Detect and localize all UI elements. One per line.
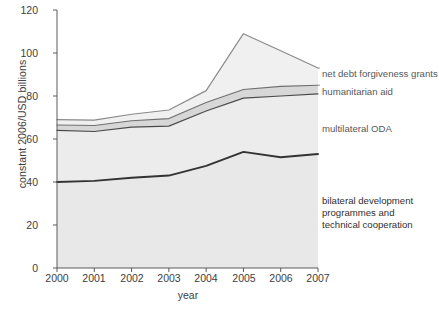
y-tick-label-120: 120: [8, 5, 38, 15]
x-tick-label-2000: 2000: [37, 272, 77, 284]
x-axis-title: year: [57, 289, 319, 301]
chart-canvas: constant 2006/USD billions year 120 100 …: [0, 0, 439, 309]
x-tick-label-2002: 2002: [112, 272, 152, 284]
x-tick-label-2007: 2007: [298, 272, 338, 284]
x-tick-label-2006: 2006: [261, 272, 301, 284]
y-tick-label-20: 20: [8, 220, 38, 230]
annotation-multilateral-oda: multilateral ODA: [322, 123, 392, 135]
x-tick-label-2003: 2003: [149, 272, 189, 284]
y-tick-label-60: 60: [8, 134, 38, 144]
annotation-humanitarian-aid: humanitarian aid: [322, 86, 393, 98]
y-tick-label-80: 80: [8, 91, 38, 101]
area-chart-plot: [0, 0, 439, 309]
annotation-bilateral-line-1: bilateral development: [322, 195, 413, 207]
x-tick-label-2001: 2001: [74, 272, 114, 284]
y-tick-label-100: 100: [8, 48, 38, 58]
annotation-bilateral-line-3: technical cooperation: [322, 219, 413, 231]
y-tick-label-40: 40: [8, 177, 38, 187]
x-tick-label-2005: 2005: [224, 272, 264, 284]
annotation-bilateral-line-2: programmes and: [322, 207, 395, 219]
x-tick-label-2004: 2004: [186, 272, 226, 284]
y-tick-label-0: 0: [8, 263, 38, 273]
annotation-net-debt-forgiveness-grants: net debt forgiveness grants: [322, 68, 438, 80]
